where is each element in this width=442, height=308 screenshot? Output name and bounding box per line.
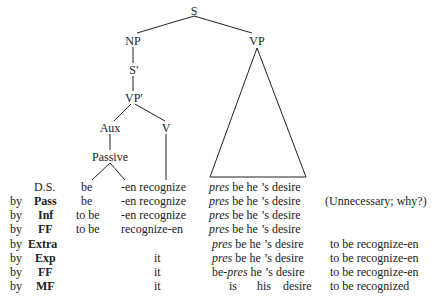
vp-cell: pres be he ’s desire [209,209,301,221]
vp-cell: pres be he ’s desire [212,238,304,250]
by-label: by [10,280,22,292]
verb-cell: -en recognize [121,181,186,193]
extraposed-cell: to be recognize-en [330,266,419,278]
aux-cell: be [81,181,92,193]
rule-label: D.S. [34,181,55,193]
node-aux: Aux [100,122,121,134]
by-label: by [10,238,22,250]
verb-cell: recognize-en [121,223,183,235]
node-np: NP [125,35,140,47]
verb-cell: -en recognize [121,195,186,207]
rule-label: Extra [28,238,57,250]
rule-label: Inf [38,209,53,221]
vp-cell: pres be he ’s desire [212,252,304,264]
node-s-bar: S′ [129,64,138,76]
note-cell: (Unnecessary; why?) [325,195,427,207]
copula-cell: is [229,280,237,292]
expletive-cell: it [154,252,161,264]
extraposed-cell: to be recognize-en [330,238,419,250]
by-label: by [10,223,22,235]
rule-label: Pass [34,195,57,207]
vp-cell: pres be he ’s desire [209,223,301,235]
vp-cell: pres be he ’s desire [209,181,301,193]
extraposed-cell: to be recognize-en [330,252,419,264]
possessive-cell: his [257,280,271,292]
by-label: by [10,195,22,207]
aux-cell: to be [76,223,100,235]
extraposed-cell: to be recognized [330,280,409,292]
node-v: V [162,122,171,134]
noun-cell: desire [283,280,312,292]
by-label: by [10,209,22,221]
node-vp-bar: VP′ [125,92,143,104]
vp-cell: pres be he ’s desire [209,195,301,207]
rule-label: FF [38,266,53,278]
aux-cell: be [81,195,92,207]
expletive-cell: it [154,280,161,292]
verb-cell: -en recognize [121,209,186,221]
aux-cell: to be [76,209,100,221]
by-label: by [10,252,22,264]
by-label: by [10,266,22,278]
node-vp: VP [249,35,264,47]
rule-label: FF [38,223,53,235]
expletive-cell: it [154,266,161,278]
rule-label: Exp [35,252,56,264]
rule-label: MF [36,280,55,292]
node-s: S [191,5,198,17]
node-passive: Passive [92,151,128,163]
vp-cell: be-pres he ’s desire [212,266,305,278]
